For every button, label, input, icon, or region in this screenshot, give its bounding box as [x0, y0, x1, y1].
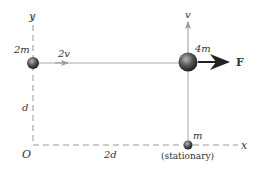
- ball-4m: [179, 53, 198, 72]
- ball-2m: [27, 57, 39, 69]
- y-axis-label: y: [28, 10, 36, 23]
- physics-diagram: y x O d 2d 2m 2v 4m v F m (stationary): [0, 0, 261, 169]
- distance-d-label: d: [22, 102, 28, 113]
- velocity-2v-label: 2v: [57, 48, 70, 59]
- force-F-label: F: [236, 56, 244, 69]
- mass-4m-label: 4m: [194, 43, 211, 54]
- origin-label: O: [22, 148, 31, 161]
- mass-m-label: m: [193, 130, 202, 141]
- stationary-note: (stationary): [161, 151, 214, 161]
- velocity-v-label: v: [185, 9, 191, 20]
- ball-m: [184, 141, 193, 150]
- mass-2m-label: 2m: [13, 44, 30, 55]
- distance-2d-label: 2d: [103, 149, 117, 160]
- x-axis-label: x: [241, 139, 248, 152]
